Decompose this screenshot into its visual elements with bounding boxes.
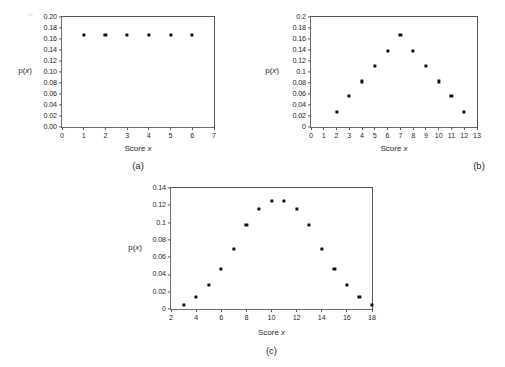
data-point [104,34,107,37]
y-axis-tick-mark [59,38,62,39]
y-axis-tick-label: 0.16 [292,35,306,42]
x-axis-tick: 2 [335,127,339,139]
y-axis-tick-label: 0.04 [292,101,306,108]
x-axis-tick: 8 [244,309,248,321]
x-axis-tick-mark [374,127,375,130]
x-axis-tick: 4 [360,127,364,139]
x-axis-tick-mark [387,127,388,130]
y-axis-tick-label: 0.08 [152,236,166,243]
data-point [126,34,129,37]
y-axis-tick-mark [59,27,62,28]
y-axis-tick-mark [59,115,62,116]
y-axis-tick-mark [168,291,171,292]
data-point [463,110,466,113]
y-axis-title-c: p(x) [116,243,142,252]
x-axis-tick-label: 4 [194,314,198,321]
y-axis-tick-mark [168,274,171,275]
x-axis-tick-label: 8 [411,132,415,139]
data-point [147,34,150,37]
x-axis-tick-mark [477,127,478,130]
y-axis-tick: 0.02 [292,112,311,119]
y-axis-tick-mark [308,82,311,83]
y-axis-tick-mark [59,82,62,83]
y-axis-tick-label: 0.1 [156,219,166,226]
y-axis-tick: 0.1 [296,68,311,75]
y-axis-tick-label: 0.20 [43,13,57,20]
y-axis-tick: 0.02 [43,112,62,119]
x-axis-tick-label: 0 [60,132,64,139]
figure-dice-score-distributions: 0.000.020.040.060.080.100.120.140.160.18… [0,0,505,367]
y-axis-tick: 0.14 [152,184,171,191]
x-axis-tick: 2 [169,309,173,321]
x-axis-tick: 8 [411,127,415,139]
data-point [437,80,440,83]
y-axis-tick-mark [168,222,171,223]
x-axis-tick: 5 [373,127,377,139]
y-axis-tick-label: 0.16 [43,35,57,42]
data-point [182,303,185,306]
x-axis-tick: 13 [473,127,481,139]
x-axis-tick-mark [105,127,106,130]
x-axis-tick-label: 13 [473,132,481,139]
y-axis-tick: 0.04 [152,271,171,278]
y-axis-tick-label: 0.00 [43,123,57,130]
y-axis-tick: 0.18 [43,24,62,31]
x-axis-title-a: Score x [61,144,215,153]
y-axis-tick-label: 0.14 [292,46,306,53]
x-axis-tick-mark [171,309,172,312]
x-axis-tick-mark [362,127,363,130]
y-axis-tick-label: 0.04 [43,101,57,108]
x-axis-tick-label: 3 [347,132,351,139]
y-axis-title-a: p(x) [6,66,32,75]
x-axis-tick: 16 [343,309,351,321]
x-axis-tick-label: 1 [82,132,86,139]
x-axis-tick-mark [400,127,401,130]
data-point [195,295,198,298]
y-axis-tick-mark [59,16,62,17]
x-axis-tick: 12 [293,309,301,321]
x-axis-tick-mark [221,309,222,312]
x-axis-tick-label: 14 [318,314,326,321]
x-axis-tick-label: 6 [219,314,223,321]
y-axis-tick-label: 0.06 [292,90,306,97]
y-axis-tick: 0.18 [292,24,311,31]
y-axis-tick-label: 0.06 [43,90,57,97]
x-axis-tick: 4 [194,309,198,321]
y-axis-tick-label: 0.18 [292,24,306,31]
panel-c: 00.020.040.060.080.10.120.14246810121416… [100,180,420,367]
x-axis-tick-label: 5 [169,132,173,139]
data-point [220,268,223,271]
x-axis-tick: 10 [268,309,276,321]
y-axis-tick-label: 0.02 [152,288,166,295]
y-axis-tick-mark [308,60,311,61]
x-axis-tick: 1 [322,127,326,139]
y-axis-tick-label: 0.06 [152,254,166,261]
y-axis-tick-label: 0.2 [296,13,306,20]
data-point [232,247,235,250]
y-axis-tick: 0.08 [152,236,171,243]
data-point [450,95,453,98]
x-axis-tick: 3 [125,127,129,139]
data-point [360,80,363,83]
x-axis-tick-label: 7 [212,132,216,139]
y-axis-tick-label: 0 [302,123,306,130]
panel-caption-c: (c) [170,345,373,356]
x-axis-tick-mark [214,127,215,130]
y-axis-tick: 0.02 [152,288,171,295]
data-point [169,34,172,37]
x-axis-tick-label: 0 [309,132,313,139]
data-point [358,295,361,298]
data-point [348,95,351,98]
y-axis-tick: 0.04 [292,101,311,108]
y-axis-tick-label: 0.1 [296,68,306,75]
x-axis-tick-mark [148,127,149,130]
data-point [424,64,427,67]
x-axis-tick: 6 [386,127,390,139]
y-axis-tick-label: 0 [162,305,166,312]
data-point [308,224,311,227]
y-axis-tick: 0.20 [43,13,62,20]
y-axis-tick-mark [59,60,62,61]
x-axis-tick-label: 10 [435,132,443,139]
y-axis-tick-label: 0.08 [43,79,57,86]
data-point [257,207,260,210]
